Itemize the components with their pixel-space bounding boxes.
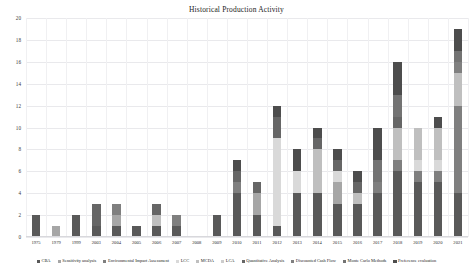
x-axis-tick-label: 2007	[172, 240, 181, 245]
bars-layer	[26, 18, 468, 237]
legend-swatch-icon	[196, 260, 199, 263]
legend-item[interactable]: Environmental Impact Assessment	[103, 259, 169, 263]
bar-segment	[313, 149, 321, 193]
bar-segment	[333, 204, 341, 237]
legend-item[interactable]: Quantitative Analysis	[242, 259, 285, 263]
bar-segment	[393, 128, 401, 161]
legend-label: LCA	[226, 259, 235, 263]
legend-swatch-icon	[37, 260, 40, 263]
x-axis-tick-label: 2014	[313, 240, 322, 245]
legend-swatch-icon	[291, 260, 294, 263]
y-axis-tick-label: 16	[16, 59, 21, 65]
bar-segment	[213, 215, 221, 237]
bar-segment	[152, 215, 160, 226]
bar-segment	[434, 160, 442, 171]
legend-label: MCDA	[201, 259, 214, 263]
bar-stack	[233, 160, 241, 237]
x-axis-tick-label: 2020	[433, 240, 442, 245]
bar-segment	[72, 215, 80, 237]
chart-legend: CBASensitivity analysisEnvironmental Imp…	[0, 259, 473, 263]
x-axis-tick-label: 2017	[373, 240, 382, 245]
bar-stack	[293, 149, 301, 237]
bar-stack	[32, 215, 40, 237]
legend-item[interactable]: LCA	[221, 259, 234, 263]
bar-stack	[112, 204, 120, 237]
bar-segment	[373, 182, 381, 193]
legend-item[interactable]: CBA	[37, 259, 51, 263]
x-axis-tick-label: 2012	[273, 240, 282, 245]
bar-segment	[353, 193, 361, 204]
bar-segment	[112, 215, 120, 226]
bar-segment	[233, 193, 241, 237]
x-axis-tick-label: 2013	[293, 240, 302, 245]
chart-container: Historical Production Activity 024681012…	[0, 0, 473, 274]
legend-item[interactable]: LCC	[176, 259, 189, 263]
bar-segment	[32, 215, 40, 237]
bar-segment	[393, 171, 401, 237]
bar-segment	[233, 160, 241, 171]
bar-stack	[353, 171, 361, 237]
legend-label: Sensitivity analysis	[62, 259, 96, 263]
bar-segment	[293, 171, 301, 193]
legend-label: Monte Carlo Methods	[348, 259, 387, 263]
legend-item[interactable]: Preference evaluation	[393, 259, 436, 263]
bar-segment	[313, 128, 321, 139]
bar-stack	[152, 204, 160, 237]
bar-segment	[253, 193, 261, 215]
legend-label: LCC	[181, 259, 190, 263]
x-axis-tick-label: 2009	[212, 240, 221, 245]
bar-segment	[253, 215, 261, 237]
bar-segment	[434, 117, 442, 128]
chart-title: Historical Production Activity	[0, 5, 473, 14]
y-axis-tick-label: 14	[16, 81, 21, 87]
bar-stack	[434, 117, 442, 237]
legend-item[interactable]: Sensitivity analysis	[58, 259, 97, 263]
bar-stack	[373, 128, 381, 238]
x-axis-tick-label: 2018	[393, 240, 402, 245]
bar-segment	[273, 138, 281, 226]
bar-segment	[373, 160, 381, 182]
bar-segment	[373, 128, 381, 161]
y-axis-tick-label: 18	[16, 37, 21, 43]
bar-stack	[253, 182, 261, 237]
y-axis-tick-label: 6	[18, 168, 21, 174]
x-axis-tick-label: 2019	[413, 240, 422, 245]
x-axis-tick-label: 2006	[152, 240, 161, 245]
bar-stack	[172, 215, 180, 237]
x-axis-tick-label: 1975	[31, 240, 40, 245]
x-axis-tick-label: 2010	[232, 240, 241, 245]
bar-segment	[333, 171, 341, 182]
bar-segment	[434, 182, 442, 237]
x-axis-tick-label: 2016	[353, 240, 362, 245]
y-axis-tick-label: 2	[18, 212, 21, 218]
x-axis-tick-label: 2011	[253, 240, 262, 245]
legend-item[interactable]: MCDA	[196, 259, 214, 263]
bar-segment	[152, 204, 160, 215]
x-axis-tick-label: 2003	[92, 240, 101, 245]
y-axis-tick-label: 4	[18, 190, 21, 196]
gridline-horizontal	[26, 237, 468, 238]
bar-segment	[454, 51, 462, 62]
gridline-vertical	[468, 18, 469, 237]
bar-segment	[293, 193, 301, 237]
bar-segment	[393, 95, 401, 117]
plot-area	[26, 18, 468, 237]
y-axis-tick-label: 12	[16, 103, 21, 109]
legend-label: CBA	[42, 259, 51, 263]
bar-segment	[273, 106, 281, 117]
legend-label: Discounted Cash Flow	[296, 259, 336, 263]
y-axis-tick-label: 0	[18, 234, 21, 240]
legend-item[interactable]: Monte Carlo Methods	[343, 259, 386, 263]
bar-segment	[92, 204, 100, 226]
bar-segment	[393, 160, 401, 171]
bar-stack	[92, 204, 100, 237]
x-axis-labels: 1975197919992003200420052006200720082009…	[26, 240, 468, 250]
x-axis-tick-label: 2015	[333, 240, 342, 245]
bar-segment	[172, 215, 180, 226]
bar-segment	[273, 117, 281, 139]
bar-segment	[393, 62, 401, 95]
bar-stack	[454, 29, 462, 237]
x-axis-tick-label: 2005	[132, 240, 141, 245]
legend-item[interactable]: Discounted Cash Flow	[291, 259, 336, 263]
bar-segment	[333, 149, 341, 160]
